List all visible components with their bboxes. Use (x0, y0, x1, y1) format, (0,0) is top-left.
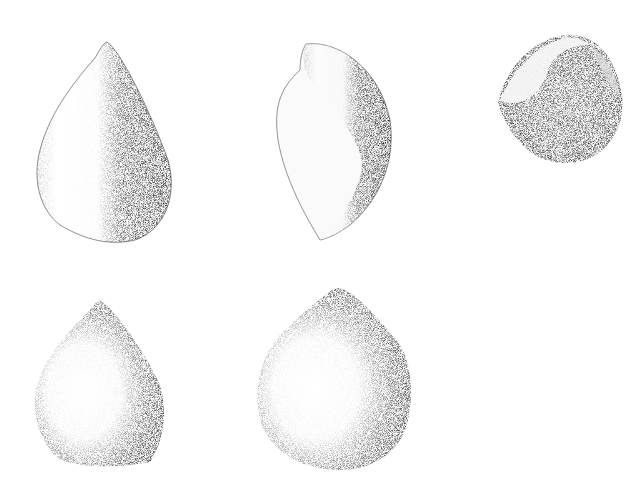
specimen-2-side-view (277, 44, 392, 240)
specimen-plate (0, 0, 626, 485)
plate-illustration (0, 0, 626, 485)
specimen-1-front-view (37, 42, 171, 242)
specimen-4-front-view (35, 300, 164, 466)
specimen-5-front-view (257, 288, 411, 470)
specimen-3-apertural-view (498, 35, 622, 163)
